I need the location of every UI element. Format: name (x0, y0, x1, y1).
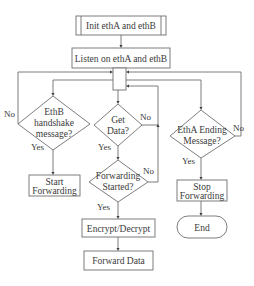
ethb-no-label: No (4, 109, 15, 119)
listen-box: Listen on ethA and ethB (72, 48, 170, 68)
start-forwarding-line-2: Forwarding (32, 186, 77, 196)
etha-line-2: Message? (183, 136, 220, 146)
connector (126, 80, 201, 108)
etha-no-label: No (233, 123, 244, 133)
init-box: Init ethA and ethB (76, 16, 166, 35)
etha-yes-label: Yes (182, 156, 196, 166)
forwarding-yes-label: Yes (97, 202, 111, 212)
hub-bar (113, 68, 126, 90)
forwarding-line-1: Forwarding (96, 171, 141, 181)
ethb-line-3: message? (36, 129, 72, 139)
stop-forwarding-line-2: Forwarding (180, 191, 225, 201)
arrowhead (157, 124, 160, 127)
ethb-handshake-decision: EthB handshake message? (18, 96, 90, 150)
ethb-line-1: EthB (44, 107, 64, 117)
etha-line-1: EthA Ending (177, 125, 227, 135)
encrypt-label: Encrypt/Decrypt (87, 224, 151, 234)
arrowhead (120, 45, 123, 48)
end-terminal: End (177, 216, 227, 238)
get-data-line-1: Get (111, 115, 125, 125)
ethb-line-2: handshake (34, 118, 74, 128)
forward-data-label: Forward Data (92, 256, 145, 266)
start-forwarding-box: Start Forwarding (29, 175, 80, 196)
stop-forwarding-line-1: Stop (193, 182, 211, 192)
encrypt-decrypt-box: Encrypt/Decrypt (82, 219, 155, 237)
start-forwarding-line-1: Start (46, 177, 64, 187)
forwarding-started-decision: Forwarding Started? (89, 160, 148, 202)
get-data-line-2: Data? (107, 126, 129, 136)
listen-label: Listen on ethA and ethB (75, 54, 167, 64)
get-data-decision: Get Data? (94, 104, 142, 146)
stop-forwarding-box: Stop Forwarding (177, 180, 227, 201)
forward-data-box: Forward Data (84, 251, 153, 270)
get-data-no-label: No (140, 112, 151, 122)
flowchart: Init ethA and ethB Listen on ethA and et… (0, 0, 254, 286)
forwarding-line-2: Started? (102, 182, 133, 192)
init-label: Init ethA and ethB (86, 21, 156, 31)
etha-ending-decision: EthA Ending Message? (170, 110, 235, 158)
ethb-yes-label: Yes (31, 142, 45, 152)
end-label: End (194, 223, 210, 233)
forwarding-no-label: No (143, 166, 154, 176)
get-data-yes-label: Yes (98, 142, 112, 152)
connector (53, 80, 113, 94)
